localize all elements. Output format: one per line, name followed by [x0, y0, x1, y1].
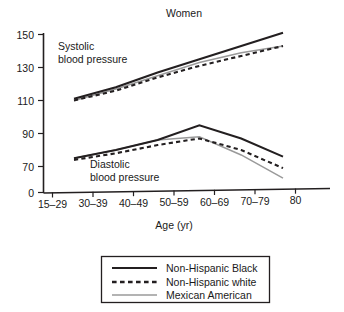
y-tick-label-90: 90 — [22, 128, 34, 140]
chart-title: Women — [166, 7, 202, 19]
x-tick-label-6: 70–79 — [240, 195, 269, 207]
y-tick-label-150: 150 — [16, 29, 34, 41]
systolic-annotation-line2: blood pressure — [58, 53, 128, 65]
legend-label-non-hispanic-white: Non-Hispanic white — [166, 276, 257, 288]
x-tick-label-7: 80 — [290, 194, 302, 206]
legend-label-non-hispanic-black: Non-Hispanic Black — [166, 262, 258, 274]
y-tick-label-130: 130 — [16, 62, 34, 74]
x-tick-label-2: 30–39 — [78, 197, 107, 209]
x-tick-label-1: 15–29 — [38, 198, 67, 210]
y-tick-label-110: 110 — [17, 95, 34, 107]
y-tick-label-0: 0 — [28, 187, 34, 199]
diastolic-annotation-line1: Diastolic — [90, 158, 130, 170]
y-tick-label-70: 70 — [22, 161, 34, 173]
x-tick-label-4: 50–59 — [159, 196, 188, 208]
diastolic-annotation-line2: blood pressure — [90, 171, 160, 183]
chart-figure: Women 150 130 110 90 70 0 — [0, 0, 344, 312]
legend-label-mexican-american: Mexican American — [166, 289, 252, 301]
x-axis-title: Age (yr) — [155, 219, 192, 231]
x-tick-label-5: 60–69 — [200, 196, 229, 208]
systolic-annotation-line1: Systolic — [58, 40, 94, 52]
x-tick-label-3: 40–49 — [119, 197, 148, 209]
